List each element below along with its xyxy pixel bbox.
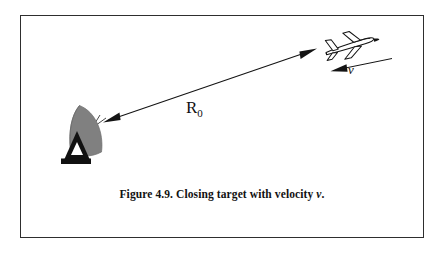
figure-border-frame	[20, 15, 424, 238]
caption-suffix: .	[322, 188, 325, 200]
range-label: R0	[186, 98, 203, 119]
range-subscript: 0	[197, 107, 203, 119]
velocity-label: v	[348, 62, 354, 78]
figure-caption: Figure 4.9. Closing target with velocity…	[20, 188, 424, 200]
figure-page: R0 v Figure 4.9. Closing target with vel…	[0, 0, 445, 258]
range-symbol: R	[186, 98, 197, 117]
caption-prefix: Figure 4.9. Closing target with velocity	[119, 188, 316, 200]
